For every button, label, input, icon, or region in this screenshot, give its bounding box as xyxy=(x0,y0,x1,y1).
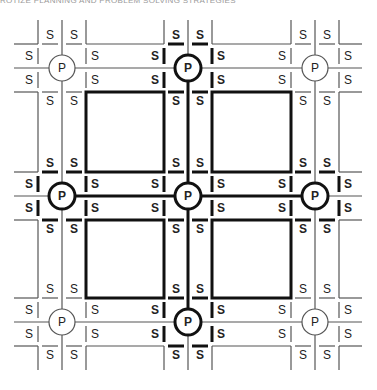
intersection-grid-diagram: SSSSSSSSPSSSSSSSSPSSSSSSSSPSSSSSSSSPSSSS… xyxy=(0,0,377,390)
stop-marker-s: S xyxy=(217,327,225,341)
stop-marker-s: S xyxy=(91,177,99,191)
stop-marker-s: S xyxy=(344,327,352,341)
stop-marker-s: S xyxy=(70,94,78,108)
stop-marker-s: S xyxy=(217,177,225,191)
signal-node-label-p: P xyxy=(311,189,319,203)
stop-marker-s: S xyxy=(217,201,225,215)
stop-marker-s: S xyxy=(46,28,54,42)
stop-marker-s: S xyxy=(46,94,54,108)
signal-node-label-p: P xyxy=(184,61,192,75)
stop-marker-s: S xyxy=(278,73,286,87)
stop-marker-s: S xyxy=(217,73,225,87)
stop-marker-s: S xyxy=(196,94,204,108)
stop-marker-s: S xyxy=(25,327,33,341)
stop-marker-s: S xyxy=(323,28,331,42)
stop-marker-s: S xyxy=(172,94,180,108)
stop-marker-s: S xyxy=(299,222,307,236)
stop-marker-s: S xyxy=(196,282,204,296)
city-block xyxy=(86,92,164,172)
stop-marker-s: S xyxy=(91,73,99,87)
stop-marker-s: S xyxy=(25,303,33,317)
stop-marker-s: S xyxy=(172,348,180,362)
stop-marker-s: S xyxy=(46,156,54,170)
city-block xyxy=(212,220,291,298)
stop-marker-s: S xyxy=(196,156,204,170)
stop-marker-s: S xyxy=(151,49,159,63)
stop-marker-s: S xyxy=(46,282,54,296)
stop-marker-s: S xyxy=(70,28,78,42)
stop-marker-s: S xyxy=(172,282,180,296)
stop-marker-s: S xyxy=(217,49,225,63)
stop-marker-s: S xyxy=(151,201,159,215)
stop-marker-s: S xyxy=(70,282,78,296)
stop-marker-s: S xyxy=(299,94,307,108)
stop-marker-s: S xyxy=(151,73,159,87)
stop-marker-s: S xyxy=(344,303,352,317)
stop-marker-s: S xyxy=(299,28,307,42)
stop-marker-s: S xyxy=(91,303,99,317)
stop-marker-s: S xyxy=(217,303,225,317)
signal-node-label-p: P xyxy=(184,189,192,203)
stop-marker-s: S xyxy=(299,282,307,296)
stop-marker-s: S xyxy=(344,73,352,87)
stop-marker-s: S xyxy=(299,156,307,170)
signal-node-label-p: P xyxy=(58,61,66,75)
stop-marker-s: S xyxy=(151,327,159,341)
stop-marker-s: S xyxy=(196,28,204,42)
stop-marker-s: S xyxy=(278,201,286,215)
stop-marker-s: S xyxy=(25,73,33,87)
stop-marker-s: S xyxy=(278,327,286,341)
stop-marker-s: S xyxy=(323,94,331,108)
stop-marker-s: S xyxy=(323,348,331,362)
stop-marker-s: S xyxy=(25,177,33,191)
stop-marker-s: S xyxy=(70,222,78,236)
stop-marker-s: S xyxy=(91,327,99,341)
signal-node-label-p: P xyxy=(184,315,192,329)
stop-marker-s: S xyxy=(46,222,54,236)
stop-marker-s: S xyxy=(323,222,331,236)
signal-node-label-p: P xyxy=(58,315,66,329)
stop-marker-s: S xyxy=(344,49,352,63)
stop-marker-s: S xyxy=(25,49,33,63)
city-block xyxy=(212,92,291,172)
stop-marker-s: S xyxy=(172,222,180,236)
stop-marker-s: S xyxy=(323,282,331,296)
stop-marker-s: S xyxy=(70,348,78,362)
signal-node-label-p: P xyxy=(58,189,66,203)
stop-marker-s: S xyxy=(278,49,286,63)
stop-marker-s: S xyxy=(278,177,286,191)
stop-marker-s: S xyxy=(91,49,99,63)
stop-marker-s: S xyxy=(25,201,33,215)
city-block xyxy=(86,220,164,298)
signal-node-label-p: P xyxy=(311,315,319,329)
stop-marker-s: S xyxy=(299,348,307,362)
stop-marker-s: S xyxy=(151,303,159,317)
signal-node-label-p: P xyxy=(311,61,319,75)
stop-marker-s: S xyxy=(323,156,331,170)
stop-marker-s: S xyxy=(344,177,352,191)
stop-marker-s: S xyxy=(196,348,204,362)
stop-marker-s: S xyxy=(46,348,54,362)
stop-marker-s: S xyxy=(278,303,286,317)
stop-marker-s: S xyxy=(91,201,99,215)
stop-marker-s: S xyxy=(172,28,180,42)
stop-marker-s: S xyxy=(70,156,78,170)
stop-marker-s: S xyxy=(172,156,180,170)
stop-marker-s: S xyxy=(151,177,159,191)
stop-marker-s: S xyxy=(196,222,204,236)
stop-marker-s: S xyxy=(344,201,352,215)
